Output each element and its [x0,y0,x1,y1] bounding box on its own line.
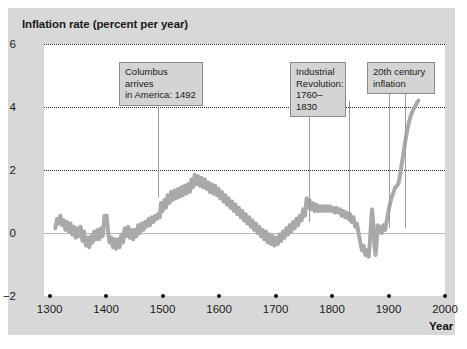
x-tick-label: 1500 [150,303,176,315]
figure-root: Inflation rate (percent per year) −20246… [0,0,467,349]
y-axis-ticks: −20246 [0,0,467,349]
y-tick-label: 2 [0,164,16,176]
annotation-leader-line-20th-century-inflation [405,89,406,228]
x-tick-marker [330,294,334,298]
x-tick-label: 2000 [432,303,458,315]
annotation-callout-columbus: Columbus arrives in America: 1492 [119,62,203,106]
x-tick-marker [217,294,221,298]
x-tick-marker [443,294,447,298]
source-caption [10,339,310,349]
annotation-callout-industrial-revolution: Industrial Revolution: 1760–1830 [290,62,346,117]
x-tick-label: 1700 [263,303,289,315]
y-tick-label: 0 [0,227,16,239]
x-tick-marker [274,294,278,298]
y-tick-label: 6 [0,38,16,50]
x-axis-label: Year [429,320,453,332]
x-tick-label: 1900 [376,303,402,315]
x-tick-label: 1800 [319,303,345,315]
annotation-leader-line-20th-century-inflation [389,89,390,228]
y-tick-label: 4 [0,101,16,113]
x-tick-label: 1600 [206,303,232,315]
x-tick-marker [387,294,391,298]
annotation-callout-20th-century-inflation: 20th century inflation [367,62,435,94]
x-tick-marker [48,294,52,298]
annotation-leader-line-industrial-revolution [349,101,350,222]
x-tick-label: 1300 [37,303,63,315]
x-tick-label: 1400 [93,303,119,315]
x-tick-marker [104,294,108,298]
y-tick-label: −2 [0,290,16,302]
annotation-leader-line-industrial-revolution [309,101,310,222]
x-tick-marker [161,294,165,298]
